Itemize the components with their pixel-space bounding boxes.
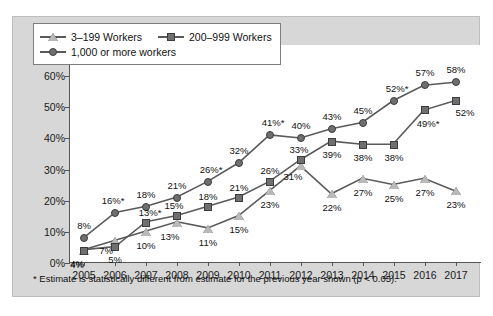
legend-item-1000-or-more-workers[interactable]: 1,000 or more workers	[40, 46, 176, 58]
data-point-marker	[420, 175, 430, 183]
y-axis-label: 40%	[44, 132, 65, 144]
data-point-marker	[327, 190, 337, 198]
data-point-marker	[328, 138, 336, 146]
x-tick	[270, 262, 271, 266]
y-axis-label: 60%	[44, 70, 65, 82]
legend-row-2: 1,000 or more workers	[40, 44, 272, 59]
x-tick	[363, 262, 364, 266]
data-point-marker	[80, 247, 88, 255]
data-point-marker	[421, 106, 429, 114]
data-point-label: 15%	[229, 224, 248, 235]
y-tick	[65, 201, 70, 202]
triangle-marker-icon	[40, 31, 66, 43]
data-point-marker	[80, 234, 88, 242]
data-point-label: 21%	[229, 181, 248, 192]
data-point-marker	[266, 178, 274, 186]
data-point-marker	[204, 178, 212, 186]
x-tick	[146, 262, 147, 266]
legend-row-1: 3–199 Workers 200–999 Workers	[40, 29, 272, 44]
data-point-marker	[266, 131, 274, 139]
y-tick	[65, 232, 70, 233]
data-point-label: 43%	[322, 111, 341, 122]
y-axis-label: 50%	[44, 101, 65, 113]
y-tick	[65, 170, 70, 171]
data-point-marker	[390, 141, 398, 149]
data-point-marker	[452, 78, 460, 86]
data-point-label: 49%*	[417, 118, 440, 129]
data-point-label: 8%	[77, 220, 91, 231]
data-point-label: 58%	[446, 64, 465, 75]
data-point-marker	[421, 81, 429, 89]
data-point-label: 38%	[353, 151, 372, 162]
data-point-marker	[111, 209, 119, 217]
data-point-marker	[297, 134, 305, 142]
data-point-label: 45%	[353, 104, 372, 115]
data-point-label: 13%	[160, 230, 179, 241]
legend-label: 200–999 Workers	[189, 31, 272, 43]
x-tick	[456, 262, 457, 266]
data-point-label: 4%	[70, 257, 84, 268]
data-point-marker	[203, 225, 213, 233]
y-tick	[65, 76, 70, 77]
data-point-label: 40%	[291, 120, 310, 131]
data-point-marker	[265, 187, 275, 195]
data-point-label: 11%	[199, 236, 217, 247]
data-point-label: 18%	[136, 188, 155, 199]
y-tick	[65, 138, 70, 139]
x-axis-label: 2017	[444, 269, 467, 281]
x-axis-label: 2016	[413, 269, 436, 281]
x-tick	[239, 262, 240, 266]
data-point-marker	[234, 212, 244, 220]
data-point-label: 23%	[446, 199, 465, 210]
chart-panel: 4%7%10%13%11%15%23%31%22%27%25%27%23%4%5…	[12, 16, 480, 297]
data-point-label: 25%	[384, 193, 403, 204]
data-point-label: 33%	[289, 144, 308, 155]
data-point-marker	[389, 181, 399, 189]
data-point-label: 27%	[415, 186, 434, 197]
footnote: * Estimate is statistically different fr…	[33, 273, 397, 284]
x-tick	[425, 262, 426, 266]
data-point-label: 18%	[198, 190, 217, 201]
data-point-marker	[452, 97, 460, 105]
x-tick	[177, 262, 178, 266]
legend-item-3-199-workers[interactable]: 3–199 Workers	[40, 31, 142, 43]
x-tick	[332, 262, 333, 266]
data-point-label: 52%*	[386, 83, 409, 94]
legend-label: 1,000 or more workers	[71, 46, 176, 58]
y-axis-label: 10%	[44, 226, 65, 238]
data-point-marker	[358, 175, 368, 183]
data-point-marker	[204, 203, 212, 211]
data-point-marker	[328, 125, 336, 133]
plot-area: 4%7%10%13%11%15%23%31%22%27%25%27%23%4%5…	[69, 45, 481, 263]
chart-legend: 3–199 Workers 200–999 Workers 1,00	[33, 23, 281, 65]
data-point-marker	[173, 212, 181, 220]
data-point-label: 13%*	[139, 206, 162, 217]
legend-label: 3–199 Workers	[71, 31, 142, 43]
x-tick	[394, 262, 395, 266]
y-tick	[65, 263, 70, 264]
data-point-label: 27%	[353, 186, 372, 197]
data-point-marker	[359, 119, 367, 127]
data-point-marker	[142, 219, 150, 227]
data-point-marker	[359, 141, 367, 149]
chart-screenshot: 4%7%10%13%11%15%23%31%22%27%25%27%23%4%5…	[0, 0, 493, 316]
x-tick	[301, 262, 302, 266]
data-point-label: 52%	[455, 107, 474, 118]
data-point-label: 10%	[136, 239, 155, 250]
data-point-label: 31%	[283, 171, 302, 182]
data-point-label: 21%	[167, 179, 186, 190]
circle-marker-icon	[40, 46, 66, 58]
data-point-label: 26%*	[200, 164, 223, 175]
data-point-marker	[235, 194, 243, 202]
data-point-label: 39%	[322, 148, 341, 159]
legend-item-200-999-workers[interactable]: 200–999 Workers	[158, 31, 272, 43]
data-point-label: 23%	[260, 199, 279, 210]
data-point-marker	[390, 97, 398, 105]
data-point-marker	[141, 228, 151, 236]
data-point-label: 22%	[322, 202, 341, 213]
data-point-label: 16%*	[102, 195, 125, 206]
data-point-label: 32%	[229, 145, 248, 156]
y-axis-label: 20%	[44, 195, 65, 207]
data-point-marker	[235, 159, 243, 167]
square-marker-icon	[158, 31, 184, 43]
